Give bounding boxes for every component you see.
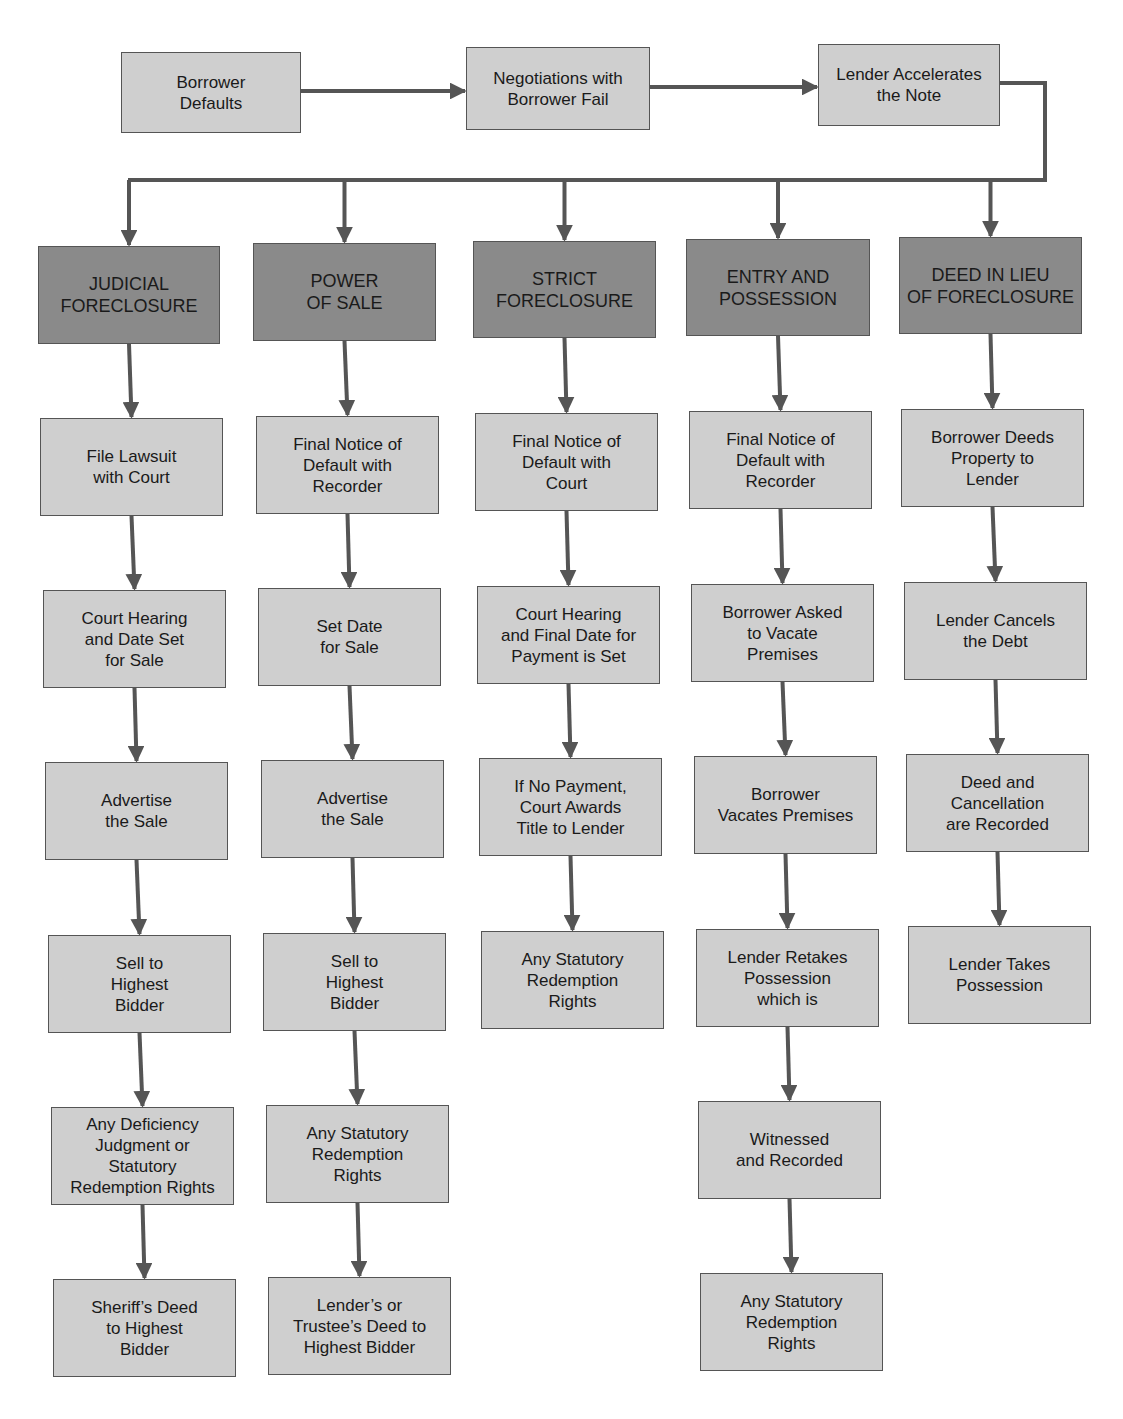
strict-foreclosure-step-2-label: Court Hearing and Final Date for Payment… (501, 604, 636, 667)
entry-and-possession-step-1: Final Notice of Default with Recorder (689, 411, 872, 509)
arrow-line (350, 686, 353, 759)
arrow-line (991, 334, 993, 408)
arrow-line (135, 688, 137, 761)
entry-and-possession-step-6-label: Any Statutory Redemption Rights (740, 1291, 842, 1354)
deed-in-lieu-step-4: Lender Takes Possession (908, 926, 1091, 1024)
deed-in-lieu-step-2-label: Lender Cancels the Debt (936, 610, 1055, 652)
power-of-sale-step-1-label: Final Notice of Default with Recorder (293, 434, 402, 497)
deed-in-lieu-step-3: Deed and Cancellation are Recorded (906, 754, 1089, 852)
step-lender-accelerates: Lender Accelerates the Note (818, 44, 1000, 126)
power-of-sale-step-6-label: Lender’s or Trustee’s Deed to Highest Bi… (293, 1295, 426, 1358)
judicial-foreclosure-step-6: Sheriff’s Deed to Highest Bidder (53, 1279, 236, 1377)
arrow-line (783, 682, 786, 755)
header-entry-and-possession-label: ENTRY AND POSSESSION (719, 266, 837, 310)
step-borrower-defaults-label: Borrower Defaults (177, 72, 246, 114)
entry-and-possession-step-1-label: Final Notice of Default with Recorder (726, 429, 835, 492)
arrow-line (355, 1031, 358, 1104)
judicial-foreclosure-step-6-label: Sheriff’s Deed to Highest Bidder (91, 1297, 197, 1360)
arrow-line (353, 858, 355, 932)
header-power-of-sale: POWER OF SALE (253, 243, 436, 341)
power-of-sale-step-6: Lender’s or Trustee’s Deed to Highest Bi… (268, 1277, 451, 1375)
arrow-line (137, 860, 140, 934)
judicial-foreclosure-step-1-label: File Lawsuit with Court (87, 446, 177, 488)
entry-and-possession-step-6: Any Statutory Redemption Rights (700, 1273, 883, 1371)
judicial-foreclosure-step-4: Sell to Highest Bidder (48, 935, 231, 1033)
power-of-sale-step-2: Set Date for Sale (258, 588, 441, 686)
arrow-line (788, 1027, 790, 1100)
deed-in-lieu-step-1: Borrower Deeds Property to Lender (901, 409, 1084, 507)
strict-foreclosure-step-2: Court Hearing and Final Date for Payment… (477, 586, 660, 684)
entry-and-possession-step-2: Borrower Asked to Vacate Premises (691, 584, 874, 682)
judicial-foreclosure-step-5: Any Deficiency Judgment or Statutory Red… (51, 1107, 234, 1205)
arrow-line (996, 680, 998, 753)
entry-and-possession-step-2-label: Borrower Asked to Vacate Premises (723, 602, 843, 665)
deed-in-lieu-step-1-label: Borrower Deeds Property to Lender (931, 427, 1054, 490)
entry-and-possession-step-4: Lender Retakes Possession which is (696, 929, 879, 1027)
strict-foreclosure-step-4-label: Any Statutory Redemption Rights (521, 949, 623, 1012)
arrow-line (790, 1199, 792, 1272)
header-strict-foreclosure: STRICT FORECLOSURE (473, 241, 656, 338)
arrow-line (129, 344, 132, 417)
connector-arrows (0, 0, 1123, 1419)
deed-in-lieu-step-2: Lender Cancels the Debt (904, 582, 1087, 680)
entry-and-possession-step-4-label: Lender Retakes Possession which is (727, 947, 847, 1010)
header-judicial-foreclosure: JUDICIAL FORECLOSURE (38, 246, 220, 344)
power-of-sale-step-4-label: Sell to Highest Bidder (326, 951, 384, 1014)
strict-foreclosure-step-4: Any Statutory Redemption Rights (481, 931, 664, 1029)
arrow-line (998, 852, 1000, 925)
step-borrower-defaults: Borrower Defaults (121, 52, 301, 133)
arrow-line (140, 1033, 143, 1106)
judicial-foreclosure-step-1: File Lawsuit with Court (40, 418, 223, 516)
header-judicial-foreclosure-label: JUDICIAL FORECLOSURE (60, 273, 197, 317)
deed-in-lieu-step-4-label: Lender Takes Possession (949, 954, 1051, 996)
header-power-of-sale-label: POWER OF SALE (306, 270, 382, 314)
power-of-sale-step-4: Sell to Highest Bidder (263, 933, 446, 1031)
judicial-foreclosure-step-3: Advertise the Sale (45, 762, 228, 860)
arrow-line (143, 1205, 145, 1278)
judicial-foreclosure-step-3-label: Advertise the Sale (101, 790, 172, 832)
header-deed-in-lieu-label: DEED IN LIEU OF FORECLOSURE (907, 264, 1074, 308)
arrow-line (571, 856, 573, 930)
arrow-line (569, 684, 571, 757)
power-of-sale-step-3: Advertise the Sale (261, 760, 444, 858)
arrow-line (345, 341, 348, 415)
judicial-foreclosure-step-2: Court Hearing and Date Set for Sale (43, 590, 226, 688)
judicial-foreclosure-step-4-label: Sell to Highest Bidder (111, 953, 169, 1016)
arrow-line (132, 516, 135, 589)
entry-and-possession-step-5: Witnessed and Recorded (698, 1101, 881, 1199)
arrow-line (786, 854, 788, 928)
strict-foreclosure-step-1: Final Notice of Default with Court (475, 413, 658, 511)
arrow-line (993, 507, 996, 581)
judicial-foreclosure-step-5-label: Any Deficiency Judgment or Statutory Red… (70, 1114, 215, 1198)
power-of-sale-step-3-label: Advertise the Sale (317, 788, 388, 830)
entry-and-possession-step-5-label: Witnessed and Recorded (736, 1129, 843, 1171)
arrow-line (565, 338, 567, 412)
judicial-foreclosure-step-2-label: Court Hearing and Date Set for Sale (82, 608, 188, 671)
step-lender-accelerates-label: Lender Accelerates the Note (836, 64, 982, 106)
power-of-sale-step-2-label: Set Date for Sale (316, 616, 382, 658)
strict-foreclosure-step-3: If No Payment, Court Awards Title to Len… (479, 758, 662, 856)
arrow-line (567, 511, 569, 585)
power-of-sale-step-1: Final Notice of Default with Recorder (256, 416, 439, 514)
step-negotiations-fail-label: Negotiations with Borrower Fail (493, 68, 622, 110)
header-entry-and-possession: ENTRY AND POSSESSION (686, 239, 870, 336)
power-of-sale-step-5-label: Any Statutory Redemption Rights (306, 1123, 408, 1186)
header-deed-in-lieu: DEED IN LIEU OF FORECLOSURE (899, 237, 1082, 334)
entry-and-possession-step-3: Borrower Vacates Premises (694, 756, 877, 854)
power-of-sale-step-5: Any Statutory Redemption Rights (266, 1105, 449, 1203)
entry-and-possession-step-3-label: Borrower Vacates Premises (718, 784, 854, 826)
arrow-line (358, 1203, 360, 1276)
arrow-line (781, 509, 783, 583)
arrow-line (778, 336, 781, 410)
header-strict-foreclosure-label: STRICT FORECLOSURE (496, 268, 633, 312)
arrow-line (348, 514, 350, 587)
deed-in-lieu-step-3-label: Deed and Cancellation are Recorded (946, 772, 1049, 835)
step-negotiations-fail: Negotiations with Borrower Fail (466, 47, 650, 130)
strict-foreclosure-step-3-label: If No Payment, Court Awards Title to Len… (514, 776, 626, 839)
strict-foreclosure-step-1-label: Final Notice of Default with Court (512, 431, 621, 494)
